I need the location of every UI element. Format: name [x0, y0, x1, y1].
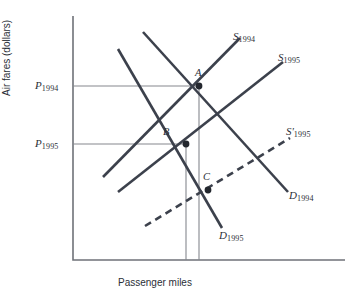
curve-d1995 [118, 49, 222, 228]
curve-label-sprime1995: S'1995 [286, 126, 311, 137]
curve-label-d1995-sub: 1995 [227, 234, 244, 243]
curve-label-sprime1995-sub: 1995 [294, 130, 311, 139]
curve-label-d1995: D1995 [219, 230, 244, 241]
point-label-a: A [195, 68, 201, 79]
price-label-p1994-base: P [35, 79, 42, 91]
curve-label-d1995-base: D [219, 229, 227, 241]
curve-label-s1995-base: S [278, 51, 284, 63]
point-label-c: C [203, 172, 210, 183]
point-label-b: B [163, 127, 169, 138]
price-label-p1994-sub: 1994 [42, 84, 59, 93]
curve-sprime1995 [145, 138, 290, 226]
air-fares-supply-demand-figure: Air fares (dollars) Passenger miles P199… [0, 0, 353, 302]
price-label-p1995-sub: 1995 [42, 142, 59, 151]
equilibrium-point-b [183, 141, 190, 148]
curve-label-s1995-sub: 1995 [284, 56, 301, 65]
price-label-p1995-base: P [35, 137, 42, 149]
price-label-p1995: P1995 [35, 138, 59, 149]
curve-label-d1994: D1994 [289, 190, 314, 201]
curve-d1994 [143, 32, 288, 192]
equilibrium-point-c [205, 187, 212, 194]
curve-label-s1994-base: S [233, 30, 239, 42]
curve-label-s1994: S1994 [233, 31, 255, 42]
chart-canvas [0, 0, 353, 302]
y-axis-title: Air fares (dollars) [2, 20, 12, 96]
price-label-p1994: P1994 [35, 80, 59, 91]
curve-label-s1995: S1995 [278, 52, 300, 63]
curve-label-s1994-sub: 1994 [239, 35, 256, 44]
equilibrium-point-a [196, 83, 203, 90]
curve-s1995 [118, 62, 283, 192]
curve-label-d1994-sub: 1994 [297, 194, 314, 203]
curve-label-d1994-base: D [289, 189, 297, 201]
curve-label-sprime1995-base: S' [286, 125, 294, 137]
x-axis-title: Passenger miles [118, 278, 192, 288]
